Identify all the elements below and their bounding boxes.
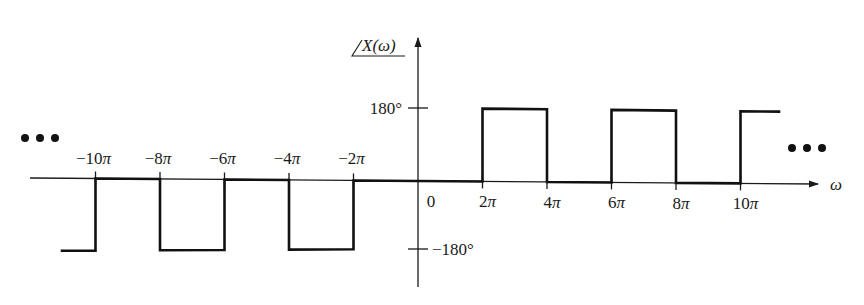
left-ellipsis <box>21 134 59 142</box>
x-axis-label: ω <box>830 175 842 194</box>
x-tick-label: 4π <box>543 193 561 212</box>
x-tick-label: −8π <box>145 149 172 168</box>
right-ellipsis <box>788 144 826 152</box>
x-tick-label: −2π <box>338 149 365 168</box>
y-axis-label: X(ω) <box>352 36 405 56</box>
x-tick-label: −4π <box>274 149 301 168</box>
x-tick-label: 2π <box>479 192 497 211</box>
x-tick-label: −6π <box>209 149 236 168</box>
x-tick-label: 6π <box>608 193 626 212</box>
x-tick-label: 10π <box>733 194 759 213</box>
phase-spectrum-chart: −10π−8π−6π−4π−2π02π4π6π8π10π 180° −180° … <box>0 0 864 305</box>
x-tick-label: −10π <box>76 149 112 168</box>
x-tick-label: 8π <box>672 194 690 213</box>
y-tick-label-neg180: −180° <box>432 240 474 259</box>
y-tick-label-180: 180° <box>370 99 402 118</box>
svg-text:X(ω): X(ω) <box>361 36 396 55</box>
x-tick-label: 0 <box>427 192 436 211</box>
